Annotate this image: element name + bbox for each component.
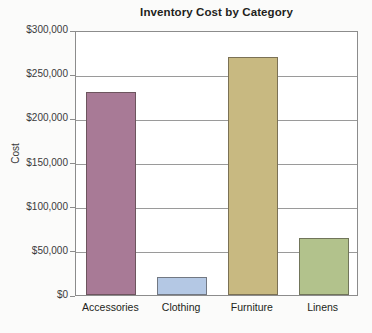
x-tick-label: Furniture: [217, 301, 288, 313]
y-tick-label: $300,000: [0, 24, 68, 35]
x-tick-label: Linens: [287, 301, 358, 313]
x-tick-label: Accessories: [75, 301, 146, 313]
chart-title: Inventory Cost by Category: [75, 6, 358, 18]
plot-area: [75, 31, 358, 296]
y-tick-label: $150,000: [0, 157, 68, 168]
bar: [86, 92, 136, 295]
bar: [228, 57, 278, 296]
gridline: [76, 76, 357, 77]
y-tick-label: $250,000: [0, 68, 68, 79]
bar: [299, 238, 349, 295]
bar: [157, 277, 207, 295]
inventory-cost-bar-chart: Inventory Cost by Category Cost $0$50,00…: [0, 0, 372, 333]
y-axis-title: Cost: [10, 131, 21, 177]
y-tick-label: $100,000: [0, 201, 68, 212]
y-tick-label: $200,000: [0, 112, 68, 123]
x-tick-label: Clothing: [146, 301, 217, 313]
y-tick-label: $0: [0, 289, 68, 300]
y-tick-label: $50,000: [0, 245, 68, 256]
